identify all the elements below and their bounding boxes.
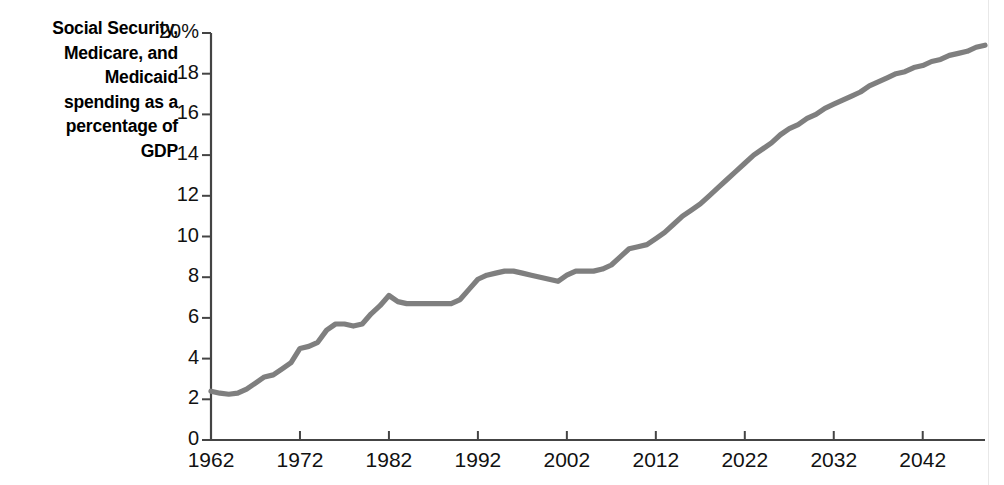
x-axis-tick-label-1982: 1982 <box>339 448 439 472</box>
y-axis-tick-label-8: 8 <box>139 264 199 287</box>
x-axis-tick-label-1972: 1972 <box>250 448 350 472</box>
y-axis-tick-label-12: 12 <box>139 183 199 206</box>
page-right-edge-rule <box>988 0 989 485</box>
x-axis-tick-label-1992: 1992 <box>428 448 528 472</box>
data-line-series-0 <box>211 45 985 394</box>
x-axis-tick-label-2032: 2032 <box>784 448 884 472</box>
chart-page: Social Security, Medicare, and Medicaid … <box>0 0 1004 485</box>
axis-lines <box>211 33 985 440</box>
x-axis-tick-label-1962: 1962 <box>161 448 261 472</box>
tick-marks-group <box>202 33 923 440</box>
y-axis-tick-label-6: 6 <box>139 305 199 328</box>
y-axis-tick-label-18: 18 <box>139 61 199 84</box>
x-axis-tick-label-2022: 2022 <box>695 448 795 472</box>
y-axis-tick-label-20pct: 20% <box>139 20 199 43</box>
y-axis-tick-label-10: 10 <box>139 224 199 247</box>
y-axis-tick-label-2: 2 <box>139 386 199 409</box>
x-axis-tick-label-2042: 2042 <box>873 448 973 472</box>
x-axis-tick-label-2012: 2012 <box>606 448 706 472</box>
y-axis-tick-label-16: 16 <box>139 101 199 124</box>
y-axis-tick-label-14: 14 <box>139 142 199 165</box>
y-axis-tick-label-4: 4 <box>139 346 199 369</box>
y-axis-tick-label-0: 0 <box>139 427 199 450</box>
x-axis-tick-label-2002: 2002 <box>517 448 617 472</box>
